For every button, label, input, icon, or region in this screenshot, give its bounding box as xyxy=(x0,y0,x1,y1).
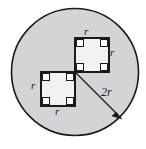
figure-canvas xyxy=(0,0,146,149)
right-angle-marker-icon xyxy=(43,98,50,105)
upper-right-square xyxy=(75,38,109,72)
geometry-figure: r r r r 2r xyxy=(0,0,146,149)
right-angle-marker-icon xyxy=(67,74,74,81)
right-angle-marker-icon xyxy=(77,64,84,71)
right-angle-marker-icon xyxy=(43,74,50,81)
label-r-left-side: r xyxy=(31,80,35,91)
label-radius-2r: 2r xyxy=(101,86,112,98)
label-r-bottom-side: r xyxy=(55,106,59,117)
right-angle-marker-icon xyxy=(101,40,108,47)
label-r-top-side: r xyxy=(84,26,88,37)
label-r-right-side: r xyxy=(110,47,114,58)
right-angle-marker-icon xyxy=(67,98,74,105)
right-angle-marker-icon xyxy=(77,40,84,47)
right-angle-marker-icon xyxy=(101,64,108,71)
lower-left-square xyxy=(41,72,75,106)
